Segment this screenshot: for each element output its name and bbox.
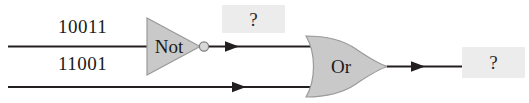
wire-not-to-or-arrowhead [225, 41, 239, 52]
not-gate-label: Not [155, 36, 184, 57]
wire-or-output-arrowhead [411, 61, 425, 72]
wire-input-bottom-arrowhead [232, 82, 246, 93]
logic-circuit-diagram: ? ? 10011 11001 Not Or [0, 0, 529, 103]
or-output-placeholder-label: ? [489, 52, 497, 73]
or-gate-label: Or [331, 56, 352, 77]
circuit-canvas: ? ? 10011 11001 Not Or [0, 0, 529, 103]
input-bottom-label: 11001 [58, 53, 107, 74]
not-gate-inversion-bubble [199, 42, 208, 51]
not-output-placeholder-label: ? [249, 9, 257, 30]
input-top-label: 10011 [58, 16, 107, 37]
